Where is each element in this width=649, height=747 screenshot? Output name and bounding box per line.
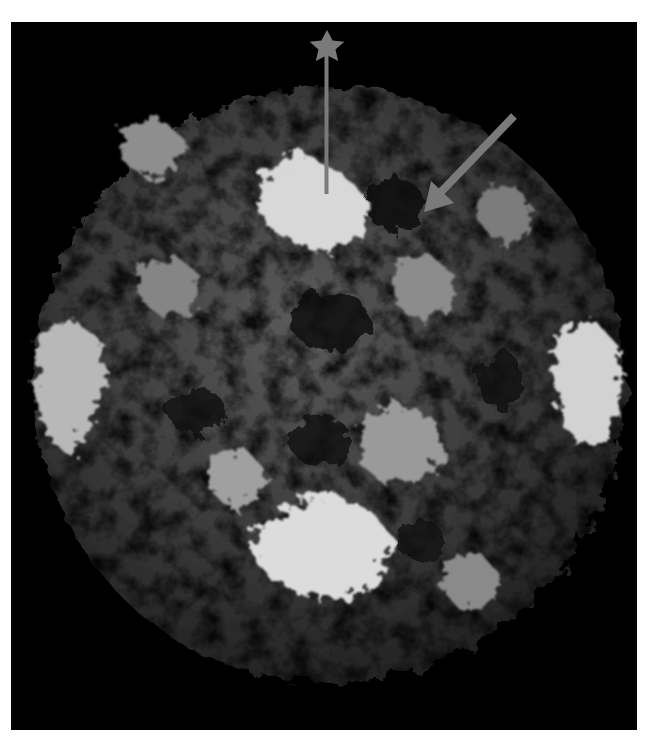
capsid-render	[0, 0, 649, 747]
star-stem	[325, 54, 329, 194]
